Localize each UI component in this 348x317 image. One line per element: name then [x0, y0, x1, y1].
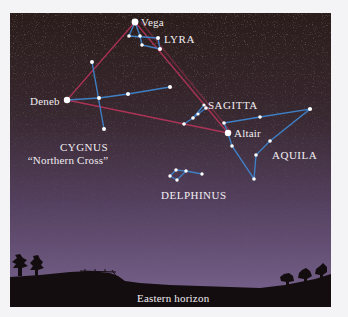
label-altair: Altair [234, 127, 261, 139]
label-cygnus: CYGNUS [46, 141, 122, 153]
star-chart: Vega LYRA Deneb SAGITTA Altair CYGNUS “N… [10, 13, 331, 307]
star-altair [225, 130, 231, 136]
label-delphinus: DELPHINUS [161, 189, 227, 201]
label-lyra: LYRA [164, 33, 195, 45]
star-vega [132, 19, 139, 26]
label-cygnus-subtitle: “Northern Cross” [16, 154, 120, 166]
star-deneb [64, 97, 70, 103]
label-sagitta: SAGITTA [208, 99, 258, 111]
label-deneb: Deneb [30, 95, 60, 107]
label-aquila: AQUILA [272, 149, 317, 161]
label-horizon: Eastern horizon [137, 292, 209, 304]
label-vega: Vega [141, 16, 164, 28]
